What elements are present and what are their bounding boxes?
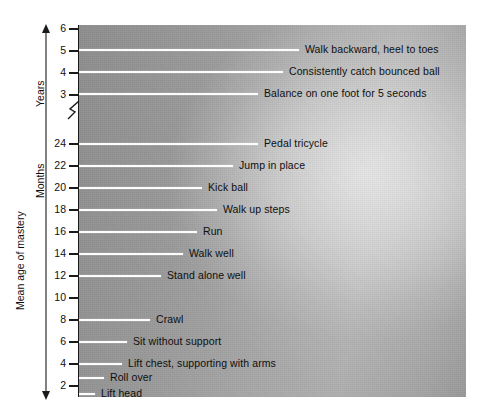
milestone-label: Walk up steps	[223, 204, 290, 215]
bar-line	[78, 49, 299, 51]
bar-line	[78, 253, 183, 255]
bar-line	[78, 377, 104, 379]
milestone-label: Balance on one foot for 5 seconds	[264, 88, 427, 99]
milestone-label: Pedal tricycle	[264, 138, 328, 149]
bar-line	[78, 363, 122, 365]
milestone-label: Roll over	[110, 372, 152, 383]
axis-tick	[69, 231, 78, 233]
bar-line	[78, 275, 161, 277]
milestone-label: Kick ball	[208, 182, 248, 193]
y-axis-title: Mean age of mastery	[14, 211, 26, 310]
axis-tick	[69, 319, 78, 321]
axis-tick	[69, 94, 78, 96]
bar-line	[78, 341, 127, 343]
bar-line	[78, 209, 217, 211]
milestone-label: Walk well	[189, 248, 234, 259]
axis-tick	[69, 297, 78, 299]
bar-line	[78, 187, 202, 189]
axis-tick	[69, 209, 78, 211]
axis-break-icon	[66, 100, 84, 120]
axis-tick	[69, 72, 78, 74]
axis-tick	[69, 187, 78, 189]
bar-line	[78, 143, 258, 145]
y-axis-spine	[78, 25, 79, 397]
bar-line	[78, 319, 150, 321]
milestone-label: Run	[203, 226, 223, 237]
milestone-label: Consistently catch bounced ball	[289, 66, 440, 77]
axis-tick	[69, 363, 78, 365]
milestone-label: Stand alone well	[167, 270, 246, 281]
milestone-label: Jump in place	[239, 160, 305, 171]
bar-line	[78, 71, 283, 73]
milestone-label: Crawl	[156, 314, 183, 325]
axis-group-label-months: Months	[34, 164, 46, 198]
milestone-label: Lift head	[101, 388, 142, 399]
axis-tick	[69, 275, 78, 277]
bar-line	[78, 93, 258, 95]
axis-tick	[69, 341, 78, 343]
milestone-label: Lift chest, supporting with arms	[128, 358, 276, 369]
bar-line	[78, 393, 95, 395]
bar-line	[78, 165, 233, 167]
axis-tick	[69, 253, 78, 255]
axis-tick	[69, 28, 78, 30]
developmental-milestones-chart: Walk backward, heel to toes Consistently…	[0, 0, 491, 415]
axis-tick	[69, 165, 78, 167]
axis-tick	[69, 143, 78, 145]
bar-line	[78, 231, 197, 233]
axis-group-label-years: Years	[34, 81, 46, 107]
axis-tick	[69, 385, 78, 387]
axis-tick	[69, 50, 78, 52]
milestone-label: Walk backward, heel to toes	[305, 44, 439, 55]
milestone-label: Sit without support	[133, 336, 221, 347]
